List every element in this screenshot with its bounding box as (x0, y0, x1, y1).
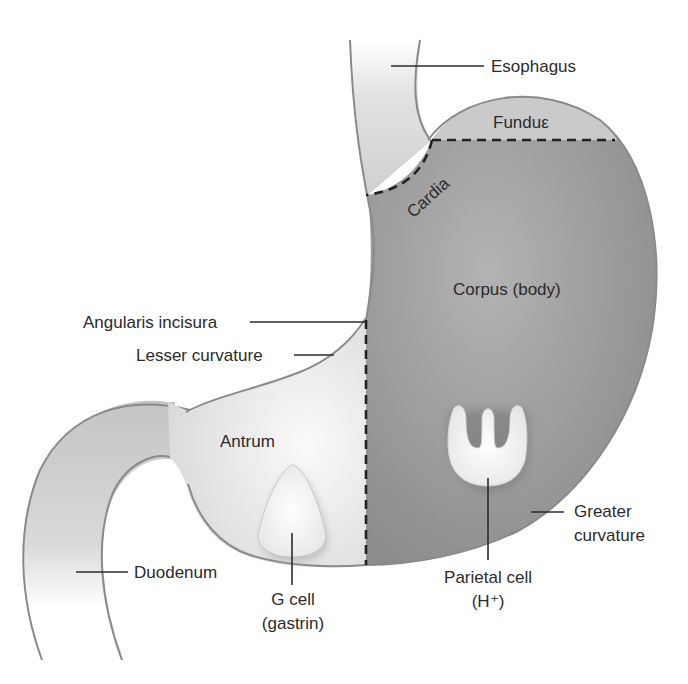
parietal-cell-icon (448, 406, 527, 486)
label-lesser-curvature: Lesser curvature (136, 346, 263, 365)
label-esophagus: Esophagus (491, 57, 576, 76)
label-parietal-cell-2: (H⁺) (472, 592, 505, 611)
label-angularis-incisura: Angularis incisura (83, 313, 218, 332)
label-fundus: Funduε (493, 113, 549, 132)
label-greater-curvature-2: curvature (574, 526, 645, 545)
label-antrum: Antrum (220, 432, 275, 451)
label-duodenum: Duodenum (134, 563, 217, 582)
label-corpus: Corpus (body) (453, 280, 561, 299)
label-parietal-cell-1: Parietal cell (444, 568, 532, 587)
corpus-region (366, 97, 656, 565)
label-greater-curvature-1: Greater (574, 502, 632, 521)
duodenum-inner-wall (102, 456, 190, 660)
label-g-cell-2: (gastrin) (262, 614, 324, 633)
duodenum-region (24, 401, 175, 660)
label-g-cell-1: G cell (271, 590, 314, 609)
stomach-diagram: Esophagus Funduε Cardia Corpus (body) An… (0, 0, 688, 684)
